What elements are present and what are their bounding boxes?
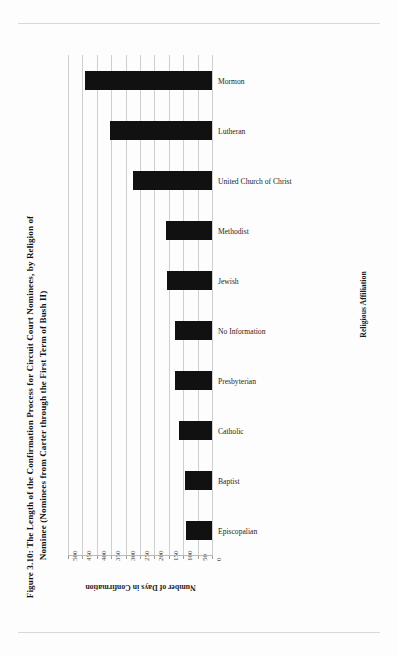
page-rule-top — [18, 23, 380, 24]
category-label: Catholic — [218, 427, 244, 437]
gridline — [212, 55, 213, 555]
category-axis-title: Religious Affiliation — [359, 245, 368, 365]
category-label: Lutheran — [218, 127, 245, 137]
value-tick-label: 0 — [215, 558, 223, 562]
category-label: Jewish — [218, 277, 239, 287]
value-axis-line — [68, 555, 213, 556]
gridline — [68, 55, 69, 555]
category-label: No Information — [218, 327, 265, 337]
plot-area: 500450400350300250200150100500MormonLuth… — [68, 55, 212, 555]
category-label: United Church of Christ — [218, 177, 292, 187]
figure-title: Figure 3.10: The Length of the Confirmat… — [24, 38, 50, 598]
category-label: Mormon — [218, 77, 245, 87]
value-axis-title: Number of Days in Confirmation — [63, 583, 218, 592]
category-label: Presbyterian — [218, 377, 256, 387]
bar — [186, 521, 212, 540]
category-label: Methodist — [218, 227, 249, 237]
bar — [166, 221, 212, 240]
bar — [110, 121, 212, 140]
bar — [85, 71, 212, 90]
bar-chart: 500450400350300250200150100500MormonLuth… — [68, 55, 212, 555]
bar — [185, 471, 212, 490]
page-rule-bottom — [18, 632, 380, 633]
bar — [175, 321, 212, 340]
category-label: Episcopalian — [218, 527, 257, 537]
figure-title-line-2: Nominee (Nominees from Carter through th… — [37, 38, 50, 598]
bar — [167, 271, 212, 290]
gridline — [97, 55, 98, 555]
category-label: Baptist — [218, 477, 240, 487]
bar — [179, 421, 212, 440]
bar — [175, 371, 212, 390]
figure-page: Figure 3.10: The Length of the Confirmat… — [0, 0, 398, 655]
bar — [133, 171, 212, 190]
figure-title-line-1: Figure 3.10: The Length of the Confirmat… — [25, 216, 35, 598]
gridline — [82, 55, 83, 555]
